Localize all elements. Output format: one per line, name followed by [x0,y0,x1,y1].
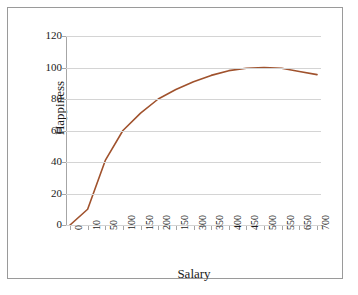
x-axis-tick [141,226,142,230]
x-axis-tick [229,226,230,230]
x-axis-tick-label: 10 [92,220,102,230]
gridline [66,194,321,195]
y-axis-tick [62,194,66,195]
x-axis-tick [264,226,265,230]
y-axis-tick [62,36,66,37]
chart-frame: 120100806040200 Happiness Salary 0105010… [7,7,343,279]
x-axis-tick-label: 200 [162,215,172,230]
x-axis-tick [246,226,247,230]
y-axis-tick [62,225,66,226]
x-axis-tick-label: 450 [250,215,260,230]
x-axis-tick-label: 550 [286,215,296,230]
y-axis-tick [62,99,66,100]
x-axis-tick-label: 350 [215,215,225,230]
x-axis-tick-label: 700 [321,215,331,230]
y-axis-tick [62,131,66,132]
x-axis-tick [317,226,318,230]
x-axis-tick [194,226,195,230]
x-axis-tick [70,226,71,230]
x-axis-tick [282,226,283,230]
x-axis-tick-label: 300 [198,215,208,230]
plot-area [66,36,321,225]
y-axis-tick-label: 0 [26,219,62,230]
x-axis-tick-label: 400 [233,215,243,230]
x-axis-title: Salary [66,266,322,282]
gridline [66,99,321,100]
gridline [66,68,321,69]
x-axis-tick [299,226,300,230]
x-axis-tick [211,226,212,230]
x-axis-tick-label: 100 [127,215,137,230]
x-axis-tick-label: 650 [303,215,313,230]
x-axis-tick-label: 50 [109,220,119,230]
x-axis-tick-label: 150 [180,215,190,230]
gridline [66,36,321,37]
x-axis-tick-label: 150 [145,215,155,230]
y-axis-tick [62,68,66,69]
x-axis-tick [176,226,177,230]
x-axis-tick [88,226,89,230]
x-axis-tick-label: 0 [74,225,84,230]
y-axis-tick-label: 20 [26,188,62,199]
gridline [66,162,321,163]
y-axis-tick-label: 120 [26,30,62,41]
gridline [66,131,321,132]
x-axis-tick [158,226,159,230]
x-axis-tick [123,226,124,230]
x-axis-tick-label: 500 [268,215,278,230]
x-axis-tick [105,226,106,230]
y-axis-tick [62,162,66,163]
